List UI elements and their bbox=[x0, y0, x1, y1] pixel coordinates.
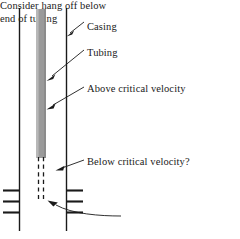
tubing-shadow bbox=[44, 9, 46, 158]
wellbore-diagram: Casing Tubing Above critical velocity Be… bbox=[0, 0, 240, 239]
leader-line bbox=[52, 50, 84, 76]
perforations-left bbox=[3, 191, 20, 213]
leader-casing bbox=[67, 22, 85, 37]
tubing-highlight bbox=[36, 9, 39, 158]
leader-line bbox=[70, 22, 84, 33]
arrowhead-icon bbox=[56, 166, 65, 171]
leader-line bbox=[62, 160, 84, 168]
label-casing: Casing bbox=[87, 21, 117, 34]
arrowhead-icon bbox=[47, 104, 56, 110]
leader-above-critical-velocity bbox=[47, 87, 85, 110]
perforations-right bbox=[67, 191, 84, 213]
leader-hang-off bbox=[48, 201, 122, 217]
label-below-critical-velocity: Below critical velocity? bbox=[87, 156, 190, 169]
leader-line bbox=[53, 87, 84, 105]
arrowhead-icon bbox=[67, 30, 75, 36]
leader-tubing bbox=[47, 50, 85, 81]
wellbore-schematic-svg bbox=[0, 0, 240, 239]
label-above-critical-velocity: Above critical velocity bbox=[87, 83, 186, 96]
leader-curve bbox=[56, 205, 121, 216]
arrowhead-icon bbox=[47, 74, 56, 81]
label-tubing: Tubing bbox=[87, 47, 118, 60]
leader-below-critical-velocity bbox=[56, 160, 85, 171]
